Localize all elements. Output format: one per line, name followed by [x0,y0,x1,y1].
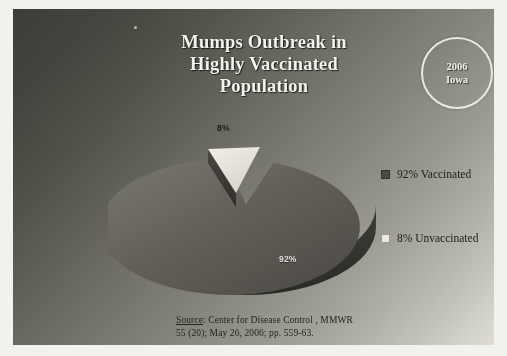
legend-swatch-icon-unvaccinated [381,234,390,243]
badge-place: Iowa [446,73,468,86]
source-citation: Source: Center for Disease Control , MMW… [176,314,353,339]
source-prefix: Source [176,315,203,325]
slide-title: Mumps Outbreak in Highly Vaccinated Popu… [125,31,403,97]
source-line-2: 55 (20); May 26, 2006; pp. 559-63. [176,327,353,340]
title-line-1: Mumps Outbreak in [125,31,403,53]
legend-swatch-icon-vaccinated [381,170,390,179]
legend-item-vaccinated: 92% Vaccinated [381,168,471,180]
title-line-2: Highly Vaccinated [125,53,403,75]
source-text-1: Center for Disease Control , MMWR [208,315,353,325]
pie-data-label-92: 92% [279,254,297,264]
pie-chart-svg [108,109,383,309]
badge-year: 2006 [447,60,468,73]
year-location-badge: 2006 Iowa [421,37,493,109]
pie-data-label-8: 8% [217,123,230,133]
presentation-slide: Mumps Outbreak in Highly Vaccinated Popu… [13,9,494,345]
legend-item-unvaccinated: 8% Unvaccinated [381,232,478,244]
photo-speck-artifact [134,26,137,29]
screenshot-page: Mumps Outbreak in Highly Vaccinated Popu… [0,0,507,356]
legend-label-unvaccinated: 8% Unvaccinated [397,232,478,244]
legend-label-vaccinated: 92% Vaccinated [397,168,471,180]
source-prefix-sep: : [203,315,206,325]
pie-chart: 8% 92% [108,109,383,309]
title-line-3: Population [125,75,403,97]
source-line-1: Source: Center for Disease Control , MMW… [176,314,353,327]
